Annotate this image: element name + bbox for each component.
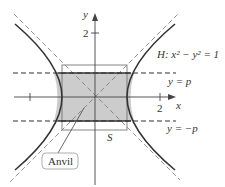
x-axis-arrow-icon bbox=[168, 94, 176, 100]
x-axis-label: x bbox=[175, 99, 181, 111]
x-tick-label: 2 bbox=[157, 102, 163, 114]
anvil-callout-label: Anvil bbox=[48, 155, 73, 167]
hyperbola-equation-label: H: x² − y² = 1 bbox=[156, 48, 219, 60]
square-s-label: S bbox=[107, 131, 113, 143]
hyperbola-anvil-diagram: y 2 x 2 H: x² − y² = 1 y = p y = −p S An… bbox=[0, 0, 225, 187]
y-axis-arrow-icon bbox=[92, 13, 98, 21]
upper-line-label: y = p bbox=[167, 75, 192, 87]
lower-line-label: y = −p bbox=[166, 122, 198, 134]
y-tick-label: 2 bbox=[83, 27, 89, 39]
y-axis-label: y bbox=[82, 8, 88, 20]
